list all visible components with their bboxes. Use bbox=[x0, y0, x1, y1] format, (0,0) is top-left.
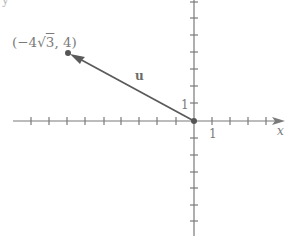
vector-name-label: u bbox=[135, 70, 144, 82]
head-label-rest: , 4) bbox=[54, 34, 76, 50]
sqrt-symbol: √ bbox=[37, 34, 46, 50]
origin-point bbox=[191, 118, 197, 124]
coordinate-diagram: y (−4√3, 4) u 1 1 x bbox=[0, 0, 285, 246]
head-label-open: (−4 bbox=[12, 34, 37, 50]
corner-fragment-label: y bbox=[2, 0, 9, 6]
y-unit-label: 1 bbox=[181, 99, 189, 111]
vector-arrowhead-icon bbox=[70, 54, 85, 64]
x-axis-label: x bbox=[277, 125, 284, 137]
head-point-label: (−4√3, 4) bbox=[12, 36, 77, 50]
vector-u bbox=[65, 50, 197, 124]
x-axis bbox=[13, 117, 278, 125]
x-unit-label: 1 bbox=[209, 128, 217, 140]
head-point bbox=[65, 50, 71, 56]
